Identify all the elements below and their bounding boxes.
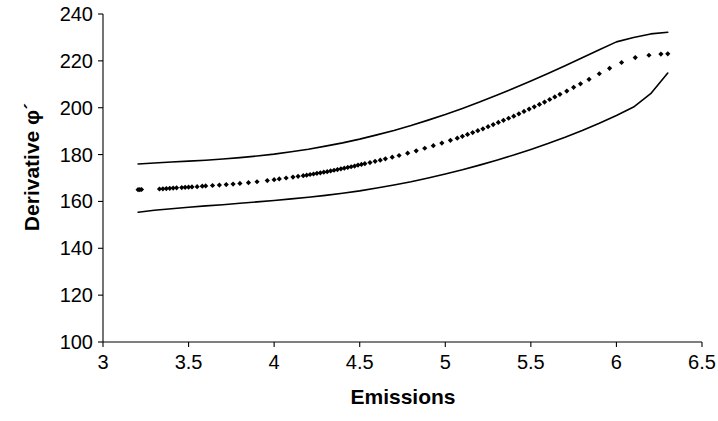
confidence-band-line: [138, 32, 668, 164]
chart-plot-svg: 10012014016018020022024033.544.555.566.5: [0, 0, 718, 421]
scatter-point: [254, 179, 259, 184]
scatter-point: [405, 151, 410, 156]
scatter-point: [390, 155, 395, 160]
scatter-point: [217, 182, 222, 187]
scatter-point: [465, 132, 470, 137]
scatter-chart-figure: 10012014016018020022024033.544.555.566.5…: [0, 0, 718, 421]
scatter-point: [460, 134, 465, 139]
scatter-series: [135, 51, 670, 192]
y-axis-tick-label: 100: [60, 331, 93, 353]
x-axis-tick-label: 4.5: [346, 351, 374, 373]
x-axis-tick-label: 6: [611, 351, 622, 373]
scatter-point: [527, 107, 532, 112]
scatter-point: [448, 138, 453, 143]
scatter-point: [290, 174, 295, 179]
scatter-point: [383, 156, 388, 161]
scatter-point: [195, 184, 200, 189]
scatter-point: [496, 120, 501, 125]
scatter-point: [189, 184, 194, 189]
scatter-point: [362, 161, 367, 166]
scatter-point: [619, 60, 624, 65]
scatter-point: [658, 51, 663, 56]
scatter-point: [564, 88, 569, 93]
x-axis-tick-label: 6.5: [688, 351, 716, 373]
scatter-point: [646, 53, 651, 58]
scatter-point: [511, 114, 516, 119]
y-axis-tick-label: 120: [60, 284, 93, 306]
scatter-point: [607, 66, 612, 71]
y-axis-tick-label: 200: [60, 97, 93, 119]
scatter-point: [396, 153, 401, 158]
x-axis-tick-label: 3: [97, 351, 108, 373]
scatter-point: [571, 85, 576, 90]
confidence-band-line: [138, 73, 668, 212]
x-axis-tick-label: 5.5: [517, 351, 545, 373]
scatter-point: [174, 185, 179, 190]
scatter-point: [237, 181, 242, 186]
scatter-point: [597, 71, 602, 76]
scatter-point: [265, 178, 270, 183]
scatter-point: [203, 183, 208, 188]
scatter-point: [378, 158, 383, 163]
scatter-point: [547, 97, 552, 102]
x-axis-tick-label: 3.5: [175, 351, 203, 373]
y-axis-tick-label: 240: [60, 3, 93, 25]
scatter-point: [542, 99, 547, 104]
scatter-point: [272, 177, 277, 182]
scatter-point: [439, 140, 444, 145]
x-axis-title: Emissions: [103, 385, 703, 409]
scatter-point: [277, 176, 282, 181]
scatter-point: [210, 183, 215, 188]
scatter-point: [557, 92, 562, 97]
y-axis-title: Derivative φ´: [20, 57, 44, 277]
scatter-point: [455, 136, 460, 141]
x-axis-tick-label: 5: [440, 351, 451, 373]
chart-screenshot: 10012014016018020022024033.544.555.566.5…: [0, 0, 718, 421]
scatter-point: [296, 174, 301, 179]
scatter-point: [470, 130, 475, 135]
scatter-point: [422, 146, 427, 151]
scatter-point: [431, 143, 436, 148]
scatter-point: [284, 175, 289, 180]
scatter-point: [586, 77, 591, 82]
scatter-point: [367, 160, 372, 165]
scatter-point: [373, 159, 378, 164]
scatter-point: [491, 122, 496, 127]
scatter-point: [246, 180, 251, 185]
scatter-point: [475, 128, 480, 133]
y-axis-tick-label: 220: [60, 50, 93, 72]
scatter-point: [532, 104, 537, 109]
scatter-point: [506, 116, 511, 121]
y-axis-tick-label: 140: [60, 237, 93, 259]
x-axis-tick-label: 4: [269, 351, 280, 373]
scatter-point: [521, 109, 526, 114]
y-axis-tick-label: 180: [60, 144, 93, 166]
scatter-point: [665, 51, 670, 56]
y-axis-tick-label: 160: [60, 190, 93, 212]
scatter-point: [537, 102, 542, 107]
scatter-point: [578, 81, 583, 86]
scatter-point: [480, 126, 485, 131]
scatter-point: [633, 55, 638, 60]
scatter-point: [224, 182, 229, 187]
scatter-point: [516, 111, 521, 116]
scatter-point: [414, 148, 419, 153]
scatter-point: [230, 181, 235, 186]
scatter-point: [485, 124, 490, 129]
scatter-point: [552, 94, 557, 99]
scatter-point: [501, 118, 506, 123]
